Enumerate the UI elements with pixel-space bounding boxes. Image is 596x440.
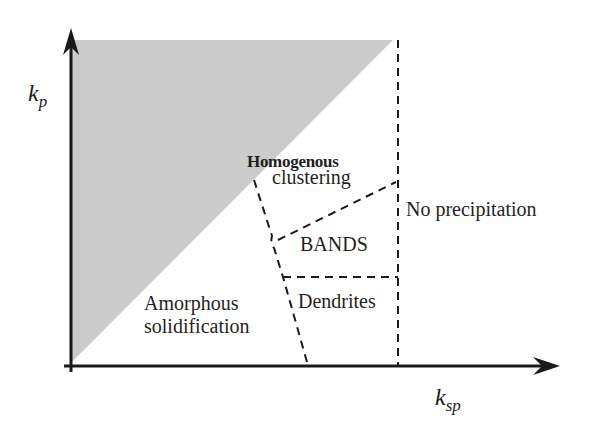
y-axis-subscript: p [39,92,48,111]
clustering-bands-boundary [278,182,396,240]
region-no-precipitation-label: No precipitation [406,198,537,220]
y-axis-label: kp [28,80,47,112]
x-axis-subscript: sp [446,396,461,415]
x-axis-symbol: k [435,384,446,410]
region-amorphous-label: Amorphous [144,292,238,314]
region-clustering-label: clustering [272,166,351,188]
region-solidification-label: solidification [144,315,250,337]
amorphous-boundary [254,180,307,362]
phase-diagram: kp ksp Homogenous clustering No precipit… [0,0,596,440]
y-axis-symbol: k [28,80,39,106]
region-bands-label: BANDS [300,233,368,255]
region-dendrites-label: Dendrites [298,290,376,312]
x-axis-label: ksp [435,384,461,416]
diagram-canvas [0,0,596,440]
